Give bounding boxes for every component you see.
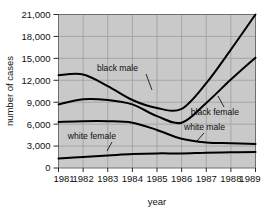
x-tick-label: 1986 [171, 173, 192, 184]
x-tick-label: 1987 [196, 173, 217, 184]
x-tick-label: 1982 [73, 173, 94, 184]
x-tick-label: 1981 [54, 173, 75, 184]
line-chart: 03,0006,0009,00012,00015,00018,00021,000… [0, 0, 276, 209]
series-label-black-male: black male [97, 63, 138, 73]
x-tick-label: 1988 [220, 173, 241, 184]
y-tick-label: 6,000 [27, 119, 51, 130]
y-tick-label: 9,000 [27, 97, 51, 108]
y-tick-label: 12,000 [21, 75, 50, 86]
y-tick-label: 3,000 [27, 140, 51, 151]
x-tick-label: 1983 [97, 173, 118, 184]
x-axis-tick-labels: 198119821983198419851986198719881989 [54, 173, 261, 184]
x-tick-label: 1989 [239, 173, 260, 184]
x-axis-title: year [148, 196, 166, 207]
y-tick-label: 15,000 [21, 53, 50, 64]
x-tick-label: 1984 [122, 173, 143, 184]
y-axis-title: number of cases [4, 56, 15, 126]
series-label-black-female: black female [191, 107, 239, 117]
x-tick-label: 1985 [146, 173, 167, 184]
y-tick-label: 21,000 [21, 9, 50, 20]
series-label-white-female: white female [67, 131, 116, 141]
series-label-white-male: white male [183, 122, 225, 132]
y-tick-label: 18,000 [21, 31, 50, 42]
chart-container: 03,0006,0009,00012,00015,00018,00021,000… [0, 0, 276, 209]
y-tick-label: 0 [45, 162, 50, 173]
